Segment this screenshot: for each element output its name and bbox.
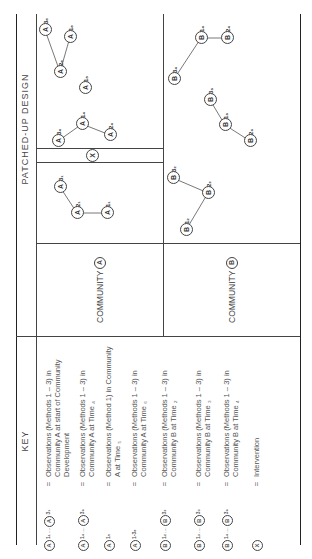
observation-node: A — [39, 23, 52, 36]
observation-node: A — [64, 30, 77, 43]
observation-node: A — [104, 128, 117, 141]
observation-node: B — [219, 118, 232, 131]
observation-node: B — [195, 31, 208, 44]
node-subscript: 1₁ — [105, 201, 111, 207]
observation-node: A — [52, 134, 65, 147]
observation-node: A — [101, 206, 114, 219]
observation-node: A — [54, 65, 67, 78]
node-subscript: 3₄ — [56, 129, 62, 135]
node-subscript: 1₂ — [184, 218, 190, 224]
observation-node: B — [244, 134, 257, 147]
node-subscript: 1₄ — [80, 112, 86, 118]
observation-node: B — [204, 93, 217, 106]
observation-node: A — [76, 117, 89, 130]
node-subscript: 2₄ — [225, 26, 231, 32]
rotated-page: KEY PATCHED-UP DESIGN COMMUNITY A COMMUN… — [0, 0, 312, 559]
node-subscript: 3₂ — [171, 166, 177, 172]
node-subscript: 3₆ — [43, 18, 49, 24]
node-subscript: 3₁ — [58, 175, 64, 181]
observation-node: B — [180, 223, 193, 236]
observation-node: B — [167, 171, 180, 184]
observation-node: B — [168, 72, 181, 85]
node-subscript: 2₆ — [58, 60, 64, 66]
node-subscript: 2₁ — [75, 201, 81, 207]
node-subscript: 2₃ — [248, 129, 254, 135]
node-subscript: 1₆ — [68, 25, 74, 31]
observation-node: A — [54, 180, 67, 193]
observation-node: B — [221, 31, 234, 44]
observation-node: B — [202, 186, 215, 199]
observation-node: A — [71, 206, 84, 219]
node-subscript: 1₄ — [199, 26, 205, 32]
node-subscript: 1₃ — [223, 113, 229, 119]
node-subscript: 3₃ — [208, 88, 214, 94]
node-subscript: 2₄ — [108, 123, 114, 129]
node-subscript: 3₄ — [172, 67, 178, 73]
node-subscript: 1₅ — [83, 76, 89, 82]
node-subscript: 2₂ — [206, 181, 212, 187]
observation-connections — [0, 0, 312, 559]
observation-node: A — [79, 81, 92, 94]
intervention-node-icon: X — [86, 149, 99, 162]
